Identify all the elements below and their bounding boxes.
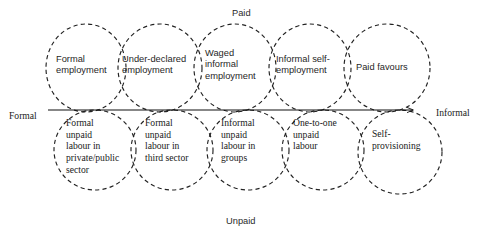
label-layer: Paid Unpaid Formal Informal Formal emplo… xyxy=(0,0,489,236)
label-one-to-one-unpaid-labour: One-to-one unpaid labour xyxy=(293,117,337,152)
axis-label-unpaid: Unpaid xyxy=(226,216,255,226)
axis-label-formal: Formal xyxy=(9,110,37,121)
label-paid-favours: Paid favours xyxy=(356,62,408,73)
label-formal-unpaid-labour-private-public-sector: Formal unpaid labour in private/public s… xyxy=(66,117,119,176)
label-waged-informal-employment: Waged informal employment xyxy=(205,48,256,82)
axis-label-informal: Informal xyxy=(436,107,470,118)
label-formal-employment: Formal employment xyxy=(56,54,107,77)
label-self-provisioning: Self- provisioning xyxy=(372,128,421,151)
label-informal-self-employment: Informal self- employment xyxy=(276,54,330,77)
axis-label-paid: Paid xyxy=(232,8,251,18)
label-informal-unpaid-labour-in-groups: Informal unpaid labour in groups xyxy=(221,117,255,164)
label-formal-unpaid-labour-third-sector: Formal unpaid labour in third sector xyxy=(145,117,188,164)
label-under-declared-employment: Under-declared employment xyxy=(122,54,186,77)
typology-diagram: Paid Unpaid Formal Informal Formal emplo… xyxy=(0,0,489,236)
